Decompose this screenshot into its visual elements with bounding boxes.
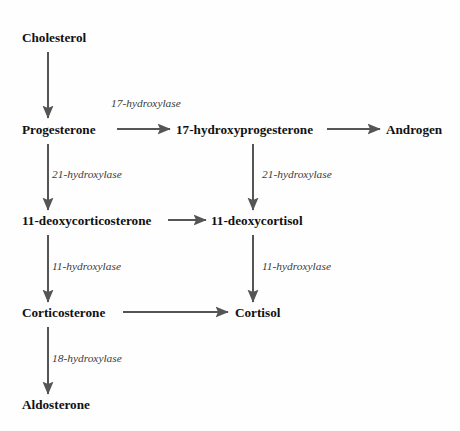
- steroidogenesis-diagram: CholesterolProgesterone17-hydroxyprogest…: [0, 0, 460, 431]
- node-deoxycorticosterone: 11-deoxycorticosterone: [22, 213, 152, 228]
- enz-18-hydroxylase: 18-hydroxylase: [52, 352, 122, 364]
- enz-21-hydroxylase-left: 21-hydroxylase: [52, 168, 122, 180]
- node-cortisol: Cortisol: [235, 305, 281, 320]
- enz-21-hydroxylase-right: 21-hydroxylase: [262, 168, 332, 180]
- node-hydroxyprogesterone: 17-hydroxyprogesterone: [176, 122, 313, 137]
- enz-11-hydroxylase-right: 11-hydroxylase: [262, 260, 331, 272]
- pathway-svg: CholesterolProgesterone17-hydroxyprogest…: [0, 0, 460, 431]
- enzymes-layer: 17-hydroxylase21-hydroxylase21-hydroxyla…: [52, 97, 332, 364]
- node-cholesterol: Cholesterol: [22, 30, 87, 45]
- node-progesterone: Progesterone: [22, 122, 96, 137]
- node-deoxycortisol: 11-deoxycortisol: [211, 213, 303, 228]
- node-corticosterone: Corticosterone: [22, 305, 105, 320]
- node-aldosterone: Aldosterone: [22, 397, 90, 412]
- enz-11-hydroxylase-left: 11-hydroxylase: [52, 260, 121, 272]
- node-androgen: Androgen: [386, 122, 443, 137]
- enz-17-hydroxylase: 17-hydroxylase: [111, 97, 181, 109]
